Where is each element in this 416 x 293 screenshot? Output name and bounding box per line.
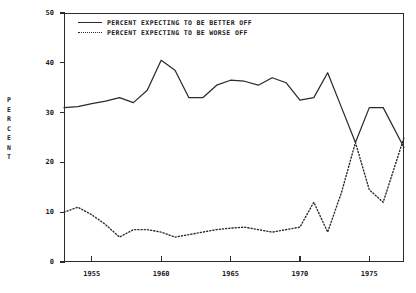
legend-item-better-off: PERCENT EXPECTING TO BE BETTER OFF — [78, 18, 328, 27]
series-better-off-line — [64, 60, 404, 147]
series-layer — [0, 0, 416, 293]
legend: PERCENT EXPECTING TO BE BETTER OFF PERCE… — [78, 18, 328, 38]
legend-label-worse-off: PERCENT EXPECTING TO BE WORSE OFF — [107, 29, 248, 37]
chart-container: P E R C E N T 01020304050 19551960196519… — [0, 0, 416, 293]
legend-item-worse-off: PERCENT EXPECTING TO BE WORSE OFF — [78, 28, 328, 37]
legend-dotted-line-icon — [78, 29, 102, 36]
series-worse-off-line — [64, 138, 404, 238]
legend-label-better-off: PERCENT EXPECTING TO BE BETTER OFF — [107, 19, 252, 27]
legend-solid-line-icon — [78, 19, 102, 26]
